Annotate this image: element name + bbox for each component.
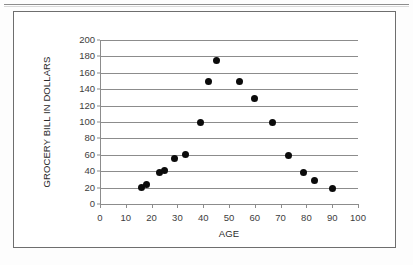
x-axis-tick-label: 30 (172, 213, 183, 223)
gridline (100, 73, 358, 74)
y-axis-tick-label: 100 (79, 117, 95, 127)
plot-area: 020406080100120140160180200 (100, 40, 358, 204)
x-axis-tick-mark (306, 204, 307, 208)
x-axis-tick-mark (255, 204, 256, 208)
scatter-point (329, 185, 336, 192)
y-axis-tick-mark (97, 72, 100, 73)
x-axis-tick-mark (229, 204, 230, 208)
x-axis-title: AGE (100, 228, 358, 240)
scatter-point (269, 119, 276, 126)
y-axis-tick-mark (97, 122, 100, 123)
y-axis-tick-label: 0 (90, 199, 95, 209)
y-axis-tick-mark (97, 105, 100, 106)
gridline (100, 171, 358, 172)
y-axis-tick-mark (97, 40, 100, 41)
x-axis-tick-label: 60 (250, 213, 261, 223)
gridline (100, 106, 358, 107)
scatter-point (213, 57, 220, 64)
x-axis-tick-mark (332, 204, 333, 208)
y-axis-tick-mark (97, 171, 100, 172)
y-axis-tick-label: 160 (79, 68, 95, 78)
y-axis-tick-label: 120 (79, 101, 95, 111)
gridline (100, 138, 358, 139)
x-axis-tick-mark (203, 204, 204, 208)
x-axis-tick-label: 90 (327, 213, 338, 223)
gridline (100, 40, 358, 41)
x-axis-tick-label: 0 (97, 213, 102, 223)
y-axis-title: GROCERY BILL IN DOLLARS (40, 40, 54, 204)
scatter-point (143, 181, 150, 188)
x-axis-tick-label: 80 (301, 213, 312, 223)
x-axis-tick-mark (177, 204, 178, 208)
x-axis-tick-mark (152, 204, 153, 208)
y-axis-tick-label: 200 (79, 35, 95, 45)
page-top-rule (4, 4, 409, 5)
gridline (100, 122, 358, 123)
y-axis-tick-label: 60 (84, 150, 95, 160)
gridline (100, 89, 358, 90)
page-top-rule-secondary (4, 6, 409, 7)
y-axis-tick-mark (97, 154, 100, 155)
scatter-point (205, 78, 212, 85)
y-axis-tick-label: 140 (79, 84, 95, 94)
chart-frame: 020406080100120140160180200 010203040506… (13, 11, 396, 248)
x-axis-tick-label: 100 (350, 213, 366, 223)
y-axis-tick-mark (97, 187, 100, 188)
y-axis-tick-label: 80 (84, 134, 95, 144)
x-axis-tick-label: 20 (146, 213, 157, 223)
x-axis-tick-mark (100, 204, 101, 208)
scatter-point (182, 151, 189, 158)
y-axis-tick-mark (97, 138, 100, 139)
y-axis-tick-mark (97, 56, 100, 57)
x-axis-tick-label: 70 (275, 213, 286, 223)
scatter-point (311, 177, 318, 184)
x-axis-tick-labels: 0102030405060708090100 (100, 204, 358, 230)
scatter-point (171, 155, 178, 162)
scatter-point (236, 78, 243, 85)
page-canvas: 020406080100120140160180200 010203040506… (0, 0, 413, 265)
x-axis-tick-label: 40 (198, 213, 209, 223)
y-axis-tick-label: 40 (84, 166, 95, 176)
scatter-point (251, 95, 258, 102)
scatter-point (161, 167, 168, 174)
scatter-point (300, 169, 307, 176)
x-axis-tick-mark (358, 204, 359, 208)
x-axis-tick-mark (281, 204, 282, 208)
x-axis-tick-mark (126, 204, 127, 208)
scatter-point (285, 152, 292, 159)
x-axis-tick-label: 50 (224, 213, 235, 223)
gridline (100, 56, 358, 57)
scatter-point (197, 119, 204, 126)
y-axis-tick-label: 180 (79, 52, 95, 62)
gridline (100, 155, 358, 156)
x-axis-tick-label: 10 (121, 213, 132, 223)
y-axis-tick-mark (97, 89, 100, 90)
y-axis-tick-label: 20 (84, 183, 95, 193)
